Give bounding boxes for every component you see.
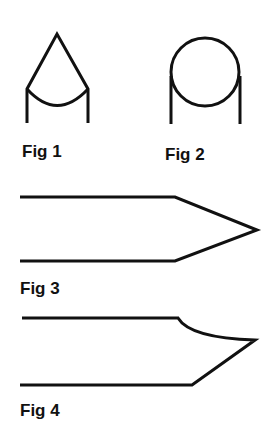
fig1-drawing [27,34,88,123]
fig4-drawing [20,318,255,385]
fig4-label: Fig 4 [20,402,60,419]
fig1-label: Fig 1 [22,143,62,160]
fig2-drawing [171,38,240,124]
fig2-label: Fig 2 [165,146,205,163]
figures-diagram [0,0,270,427]
fig3-label: Fig 3 [20,280,60,297]
fig3-drawing [20,197,257,261]
